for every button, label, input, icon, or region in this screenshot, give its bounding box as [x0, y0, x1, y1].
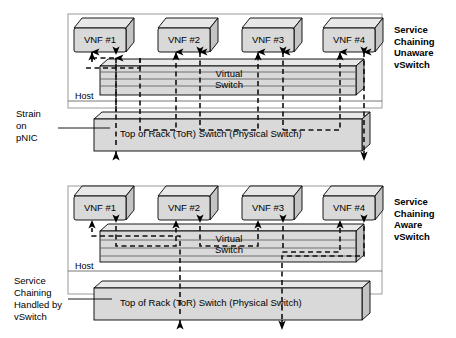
virtual-switch-label-top-line2: Switch — [196, 79, 262, 90]
strain-annotation-line2: on — [16, 120, 27, 132]
handled-annotation-line3: Handled by — [14, 299, 62, 311]
tor-io-lines-bottom — [180, 320, 282, 327]
host-label-bottom: Host — [75, 261, 94, 272]
vnf-label-bottom-3: VNF #3 — [242, 202, 294, 213]
vnf-label-top-3: VNF #3 — [242, 34, 294, 45]
side-label-bottom-line2: Chaining — [394, 208, 435, 220]
side-label-top-line1: Service — [394, 24, 428, 36]
tor-switch-label-top: Top of Rack (ToR) Switch (Physical Switc… — [120, 128, 302, 139]
handled-annotation-line1: Service — [14, 275, 46, 287]
tor-io-arrows-bottom — [176, 320, 285, 330]
host-label-top: Host — [75, 91, 94, 102]
virtual-switch-label-bottom-line2: Switch — [196, 244, 262, 255]
side-label-top-line4: vSwitch — [394, 59, 430, 71]
side-label-bottom-line3: Aware — [394, 219, 422, 231]
vnf-label-top-4: VNF #4 — [323, 34, 375, 45]
vnf-label-top-1: VNF #1 — [74, 34, 126, 45]
side-label-top-line3: Unaware — [394, 47, 434, 59]
vnf-label-bottom-4: VNF #4 — [323, 202, 375, 213]
handled-annotation-line2: Chaining — [14, 287, 52, 299]
tor-io-lines-top — [116, 151, 364, 158]
virtual-switch-label-top-line1: Virtual — [196, 68, 262, 79]
vnf-label-top-2: VNF #2 — [158, 34, 210, 45]
tor-switch-label-bottom: Top of Rack (ToR) Switch (Physical Switc… — [120, 297, 302, 308]
virtual-switch-label-bottom-line1: Virtual — [196, 233, 262, 244]
vnf-label-bottom-2: VNF #2 — [158, 202, 210, 213]
strain-annotation-line3: pNIC — [16, 132, 38, 144]
diagram-canvas: VNF #1 VNF #2 VNF #3 VNF #4 Virtual Swit… — [0, 0, 456, 338]
side-label-bottom-line4: vSwitch — [394, 231, 430, 243]
handled-annotation-line4: vSwitch — [14, 311, 47, 323]
tor-io-arrows-top — [112, 151, 367, 161]
strain-annotation-line1: Strain — [16, 108, 41, 120]
vnf-label-bottom-1: VNF #1 — [74, 202, 126, 213]
side-label-bottom-line1: Service — [394, 196, 428, 208]
diagram-vector-layer — [0, 0, 456, 338]
side-label-top-line2: Chaining — [394, 36, 435, 48]
